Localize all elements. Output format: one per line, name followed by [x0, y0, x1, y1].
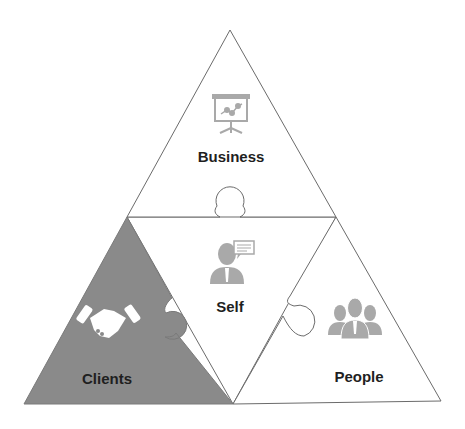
- label-clients: Clients: [82, 370, 132, 387]
- puzzle-triangle-diagram: [0, 0, 465, 429]
- label-people: People: [334, 368, 383, 385]
- label-self: Self: [216, 298, 244, 315]
- label-business: Business: [198, 148, 265, 165]
